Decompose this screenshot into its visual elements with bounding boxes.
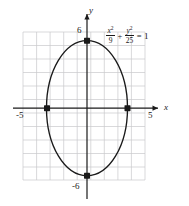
equation-term-1-numerator: x2	[106, 27, 114, 35]
point-covertex-right	[125, 105, 131, 111]
point-vertex-bottom	[84, 173, 90, 179]
equation-plus-operator: +	[118, 31, 123, 41]
x-axis-label: x	[164, 103, 168, 112]
equation-term-1-denominator: 9	[108, 36, 114, 44]
equation-equals-sign: =	[137, 31, 142, 41]
point-vertex-top	[84, 38, 90, 44]
y-axis-label: y	[89, 6, 93, 15]
ellipse-equation-label: x2 9 + y2 25 = 1	[105, 27, 149, 44]
ellipse-graph-figure: x y -5 5 6 -6 x2 9 + y2 25 = 1	[0, 0, 189, 206]
equation-term-2-numerator: y2	[126, 27, 134, 35]
equation-term-1-exponent: 2	[111, 25, 114, 31]
plot-canvas	[0, 0, 189, 206]
equation-term-1: x2 9	[106, 27, 115, 44]
x-tick-label-negative-5: -5	[16, 111, 24, 120]
point-covertex-left	[44, 105, 50, 111]
equation-term-2: y2 25	[125, 27, 135, 44]
y-tick-label-6: 6	[77, 26, 82, 35]
equation-term-2-denominator: 25	[125, 36, 135, 44]
y-tick-label-negative-6: -6	[72, 182, 80, 191]
equation-term-2-exponent: 2	[130, 25, 133, 31]
x-axis	[13, 106, 158, 111]
x-tick-label-5: 5	[148, 111, 153, 120]
equation-right-hand-side: 1	[144, 31, 149, 41]
